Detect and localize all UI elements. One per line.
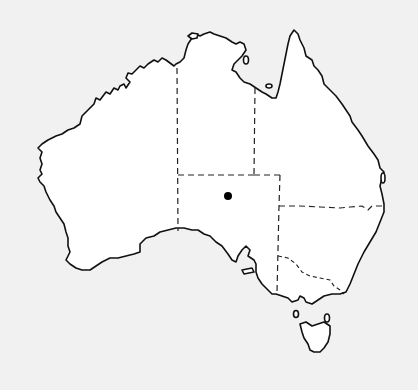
mainland-outline — [38, 30, 384, 304]
mornington-island — [266, 84, 272, 88]
flinders-island — [325, 314, 330, 322]
king-island — [294, 311, 299, 318]
australia-map — [0, 0, 418, 390]
groote-eylandt — [244, 56, 249, 64]
fraser-island — [381, 173, 385, 183]
kangaroo-island — [242, 268, 254, 274]
location-marker-dot — [224, 192, 232, 200]
map-canvas — [0, 0, 418, 390]
tasmania — [300, 322, 330, 352]
tiwi-islands — [188, 33, 198, 39]
